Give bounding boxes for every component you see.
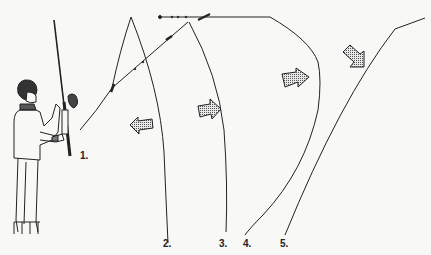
step-label-4: 4. — [243, 238, 251, 249]
diagram-drawing — [0, 0, 431, 255]
casting-diagram: 1. 2. 3. 4. 5. — [0, 0, 431, 255]
step-label-5: 5. — [280, 238, 288, 249]
arrow-down-right-icon — [343, 45, 364, 67]
fishing-line-loop-up — [112, 17, 131, 88]
arrow-right-icon — [282, 68, 309, 87]
arrow-left-icon — [130, 117, 153, 134]
step-label-1: 1. — [80, 150, 88, 161]
fishing-line-lower — [80, 88, 112, 130]
fishing-line-diagonal — [112, 22, 188, 88]
step-label-2: 2. — [163, 238, 171, 249]
rod-position-4 — [245, 17, 320, 235]
step-label-3: 3. — [219, 238, 227, 249]
angler-figure — [14, 20, 78, 234]
rod-position-3 — [189, 22, 227, 232]
arrow-right-icon — [198, 99, 221, 119]
